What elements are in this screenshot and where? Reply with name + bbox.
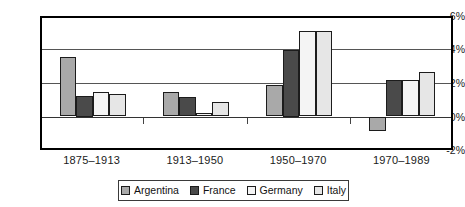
x-tick-label: 1970–1989 bbox=[350, 154, 453, 166]
bar-germany-3[interactable] bbox=[402, 80, 419, 117]
legend-item-argentina[interactable]: Argentina bbox=[121, 185, 179, 196]
bar-group bbox=[40, 16, 143, 150]
bar-france-3[interactable] bbox=[386, 80, 403, 117]
bar-germany-2[interactable] bbox=[299, 31, 316, 116]
bar-chart: 6% 4% 2% 0% -2% 1875–19131913–19501950–1… bbox=[0, 0, 465, 207]
legend-label: Germany bbox=[260, 185, 303, 196]
bar-italy-3[interactable] bbox=[419, 72, 436, 116]
bar-italy-0[interactable] bbox=[109, 94, 126, 117]
bar-france-1[interactable] bbox=[179, 97, 196, 116]
bar-group bbox=[350, 16, 453, 150]
bar-italy-2[interactable] bbox=[316, 31, 333, 116]
bar-argentina-1[interactable] bbox=[163, 92, 180, 116]
legend-item-italy[interactable]: Italy bbox=[314, 185, 346, 196]
bar-group bbox=[247, 16, 350, 150]
legend-item-germany[interactable]: Germany bbox=[247, 185, 303, 196]
x-tick-label: 1913–1950 bbox=[143, 154, 246, 166]
bar-italy-1[interactable] bbox=[212, 102, 229, 116]
bar-argentina-3[interactable] bbox=[369, 117, 386, 131]
bar-france-2[interactable] bbox=[283, 50, 300, 117]
bar-argentina-0[interactable] bbox=[60, 57, 77, 116]
x-tick-mark bbox=[350, 118, 351, 124]
bar-france-0[interactable] bbox=[76, 96, 93, 117]
legend-swatch-icon bbox=[121, 186, 130, 195]
legend-label: France bbox=[203, 185, 236, 196]
legend-swatch-icon bbox=[247, 186, 256, 195]
bar-argentina-2[interactable] bbox=[266, 85, 283, 117]
legend-swatch-icon bbox=[190, 186, 199, 195]
x-tick-label: 1950–1970 bbox=[247, 154, 350, 166]
chart-legend: ArgentinaFranceGermanyItaly bbox=[118, 180, 349, 201]
legend-label: Italy bbox=[327, 185, 346, 196]
legend-label: Argentina bbox=[134, 185, 179, 196]
bar-germany-0[interactable] bbox=[93, 92, 110, 116]
bar-groups bbox=[40, 16, 453, 150]
x-tick-label: 1875–1913 bbox=[40, 154, 143, 166]
legend-item-france[interactable]: France bbox=[190, 185, 236, 196]
x-tick-mark bbox=[247, 118, 248, 124]
bar-germany-1[interactable] bbox=[196, 113, 213, 116]
x-tick-mark bbox=[143, 118, 144, 124]
bar-group bbox=[143, 16, 246, 150]
legend-swatch-icon bbox=[314, 186, 323, 195]
